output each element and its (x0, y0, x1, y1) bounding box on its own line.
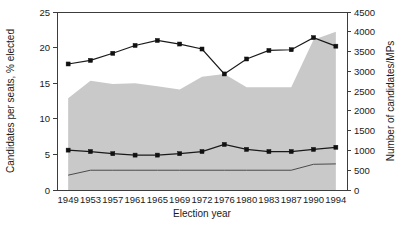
data-point-marker (245, 147, 249, 151)
x-axis-tick-label: 1983 (258, 194, 279, 205)
data-point-marker (334, 145, 338, 149)
y-axis-tick-label-left: 5 (45, 149, 50, 160)
x-axis-tick-label: 1957 (102, 194, 123, 205)
x-axis-tick-label: 1987 (281, 194, 302, 205)
x-axis-tick-label: 1994 (325, 194, 346, 205)
x-axis-tick-label: 1969 (169, 194, 190, 205)
chart-container: 0510152025050010001500200025003000350040… (0, 0, 406, 233)
y-axis-tick-label-right: 1000 (354, 145, 375, 156)
data-point-marker (289, 48, 293, 52)
data-point-marker (178, 152, 182, 156)
y-axis-tick-label-right: 0 (354, 185, 359, 196)
x-axis-tick-label: 1965 (147, 194, 168, 205)
y-axis-tick-label-right: 4500 (354, 7, 375, 18)
y-axis-title-left: Candidates per seats, % elected (5, 29, 16, 173)
data-point-marker (289, 150, 293, 154)
y-axis-tick-label-left: 20 (39, 42, 50, 53)
x-axis-tick-label: 1972 (191, 194, 212, 205)
data-point-marker (66, 62, 70, 66)
y-axis-title-right: Number of candidates/MPs (385, 41, 396, 162)
data-point-marker (88, 58, 92, 62)
data-point-marker (222, 142, 226, 146)
data-point-marker (111, 152, 115, 156)
data-point-marker (133, 43, 137, 47)
data-point-marker (312, 147, 316, 151)
data-point-marker (88, 150, 92, 154)
data-point-marker (66, 148, 70, 152)
y-axis-tick-label-right: 1500 (354, 125, 375, 136)
y-axis-tick-label-right: 4000 (354, 26, 375, 37)
y-axis-tick-label-left: 15 (39, 78, 50, 89)
data-point-marker (334, 44, 338, 48)
x-axis-tick-label: 1953 (80, 194, 101, 205)
x-axis-title: Election year (173, 208, 231, 219)
y-axis-tick-label-right: 2500 (354, 86, 375, 97)
data-point-marker (133, 153, 137, 157)
y-axis-tick-label-right: 500 (354, 165, 370, 176)
y-axis-tick-label-right: 3000 (354, 66, 375, 77)
data-point-marker (200, 150, 204, 154)
data-point-marker (222, 72, 226, 76)
y-axis-tick-label-right: 2000 (354, 105, 375, 116)
data-point-marker (111, 51, 115, 55)
y-axis-tick-label-left: 10 (39, 113, 50, 124)
election-year-chart: 0510152025050010001500200025003000350040… (0, 0, 406, 233)
x-axis-tick-label: 1949 (58, 194, 79, 205)
x-axis-tick-label: 1990 (303, 194, 324, 205)
x-axis-tick-label: 1980 (236, 194, 257, 205)
data-point-marker (267, 48, 271, 52)
data-point-marker (155, 38, 159, 42)
data-point-marker (267, 150, 271, 154)
data-point-marker (245, 57, 249, 61)
x-axis-tick-label: 1961 (125, 194, 146, 205)
data-point-marker (200, 47, 204, 51)
y-axis-tick-label-left: 25 (39, 7, 50, 18)
data-point-marker (312, 36, 316, 40)
y-axis-tick-label-left: 0 (45, 185, 50, 196)
data-point-marker (178, 42, 182, 46)
y-axis-tick-label-right: 3500 (354, 46, 375, 57)
data-point-marker (155, 153, 159, 157)
x-axis-tick-label: 1976 (214, 194, 235, 205)
